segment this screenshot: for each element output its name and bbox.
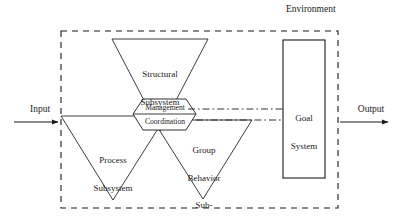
goal-system-label: Goal System <box>284 96 324 169</box>
input-label: Input <box>12 105 68 115</box>
process-subsystem-line-1: Process <box>75 156 151 165</box>
systems-diagram: Environment Input Output Structural Subs… <box>0 0 398 221</box>
group-behavior-line-3: Sub- <box>178 201 230 210</box>
output-label: Output <box>345 105 397 115</box>
structural-subsystem-label: Structural Subsystem <box>120 52 200 125</box>
structural-subsystem-line-1: Structural <box>120 70 200 79</box>
process-subsystem-label: Process Subsystem <box>75 138 151 211</box>
environment-label: Environment <box>286 5 376 15</box>
coordination-label: Coordination <box>134 118 196 126</box>
process-subsystem-line-2: Subsystem <box>75 184 151 193</box>
management-label: Management <box>136 104 194 112</box>
group-behavior-line-1: Group <box>178 146 230 155</box>
group-behavior-subsystem-label: Group Behavior Sub- system <box>178 128 230 221</box>
goal-system-line-1: Goal <box>284 114 324 123</box>
goal-system-line-2: System <box>284 142 324 151</box>
group-behavior-line-2: Behavior <box>178 174 230 183</box>
